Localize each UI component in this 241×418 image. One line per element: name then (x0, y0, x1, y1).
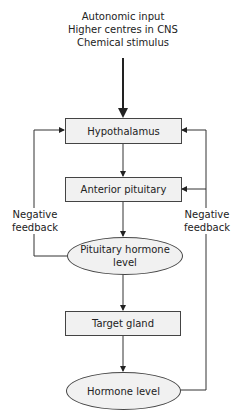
input-cns: Higher centres in CNS (40, 23, 206, 36)
hormone-level-ellipse: Hormone level (66, 372, 181, 410)
pituitary-hormone-label-2: level (80, 256, 170, 269)
target-gland-box: Target gland (65, 311, 181, 336)
hypothalamus-label: Hypothalamus (87, 126, 160, 137)
input-chemical: Chemical stimulus (40, 36, 206, 49)
hormone-level-label: Hormone level (87, 385, 160, 398)
feedback-right-line1: Negative (184, 208, 230, 221)
input-autonomic: Autonomic input (40, 10, 206, 23)
input-labels: Autonomic input Higher centres in CNS Ch… (40, 10, 206, 49)
negative-feedback-right: Negative feedback (184, 208, 230, 234)
hypothalamus-box: Hypothalamus (65, 118, 182, 144)
feedback-right-line2: feedback (184, 221, 230, 234)
anterior-pituitary-box: Anterior pituitary (65, 177, 182, 202)
target-gland-label: Target gland (92, 318, 154, 329)
anterior-pituitary-label: Anterior pituitary (81, 184, 167, 195)
feedback-left-line2: feedback (10, 221, 60, 234)
feedback-left-line1: Negative (10, 208, 60, 221)
pituitary-hormone-level-ellipse: Pituitary hormone level (67, 237, 183, 275)
negative-feedback-left: Negative feedback (10, 208, 60, 234)
pituitary-hormone-label-1: Pituitary hormone (80, 243, 170, 256)
